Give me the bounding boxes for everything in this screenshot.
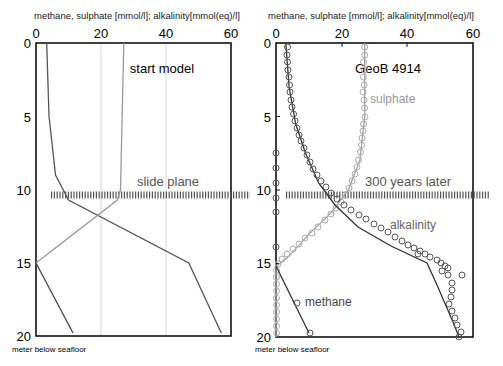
left-xtick-20: 20 xyxy=(94,26,108,41)
start-methane-line xyxy=(36,263,73,333)
left-ytick-5: 5 xyxy=(24,110,31,125)
left-ytick-0: 0 xyxy=(24,36,31,51)
left-xtick-40: 40 xyxy=(159,26,173,41)
right-ytick-15: 15 xyxy=(257,256,271,271)
left-ytick-15: 15 xyxy=(17,256,31,271)
right-xtick-60: 60 xyxy=(466,26,480,41)
right-ytick-0: 0 xyxy=(264,36,271,51)
right-ytick-10: 10 xyxy=(257,183,271,198)
right-ytick-20: 20 xyxy=(257,330,271,345)
left-xtick-60: 60 xyxy=(224,26,238,41)
300-years-label: 300 years later xyxy=(365,174,452,189)
left-panel: methane, sulphate [mmol/l]; alkalinity[m… xyxy=(12,10,250,354)
start-sulphate-line xyxy=(36,43,124,263)
slide-plane-label: slide plane xyxy=(137,174,199,189)
left-ytick-20: 20 xyxy=(17,329,31,344)
right-panel: methane, sulphate [mmol/l]; alkalinity[m… xyxy=(255,10,489,354)
chart-canvas: methane, sulphate [mmol/l]; alkalinity[m… xyxy=(0,0,503,366)
alkalinity-label: alkalinity xyxy=(390,218,436,232)
alkalinity-model-line xyxy=(286,43,459,337)
methane-label: methane xyxy=(305,295,352,309)
right-ytick-5: 5 xyxy=(264,110,271,125)
left-ylabel: meter below seafloor xyxy=(12,345,87,354)
left-xtick-0: 0 xyxy=(32,26,39,41)
left-ytick-10: 10 xyxy=(17,183,31,198)
right-xtick-40: 40 xyxy=(400,26,414,41)
right-ylabel: meter below seafloor xyxy=(255,345,330,354)
right-xtick-0: 0 xyxy=(272,26,279,41)
right-xtick-20: 20 xyxy=(335,26,349,41)
left-xaxis-title: methane, sulphate [mmol/l]; alkalinity[m… xyxy=(34,10,240,21)
sulphate-label: sulphate xyxy=(370,92,416,106)
right-xaxis-title: methane, sulphate [mmol/l]; alkalinity[m… xyxy=(268,10,474,21)
left-panel-title: start model xyxy=(130,61,194,76)
right-plot-frame xyxy=(276,43,473,337)
